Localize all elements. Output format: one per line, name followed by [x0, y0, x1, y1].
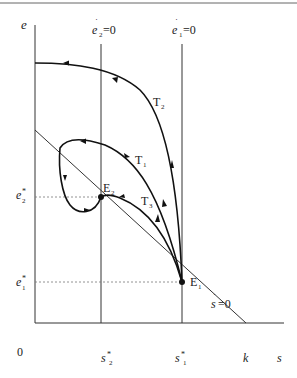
svg-text:2: 2: [109, 359, 113, 367]
y-axis-label: e: [21, 17, 27, 32]
svg-text:=0: =0: [183, 23, 196, 37]
phase-diagram: e s 0 e · 2 =0 e · 1 =0 s · =0 e * 2 e *…: [0, 0, 297, 378]
svg-text:2: 2: [22, 197, 26, 205]
arrow-T2-b: [112, 77, 118, 83]
svg-text:2: 2: [111, 189, 115, 197]
arrow-T1-e: [124, 153, 130, 158]
x-tick-k: k: [243, 351, 249, 365]
isocline-e1dot-label: e · 1 =0: [172, 14, 196, 39]
y-tick-e1star: e * 1: [16, 274, 26, 292]
svg-text:=0: =0: [103, 23, 116, 37]
trajectory-T1: [59, 140, 182, 282]
svg-text:e: e: [172, 23, 178, 37]
arrow-T3-a: [155, 214, 160, 222]
arrow-T1-b: [63, 175, 67, 181]
svg-text:1: 1: [198, 283, 202, 291]
x-tick-s2star: s * 2: [101, 350, 113, 367]
trajectory-T1-label: T 1: [135, 153, 147, 169]
svg-text:=0: =0: [218, 297, 231, 311]
trajectory-T3-label: T 3: [141, 194, 153, 210]
svg-text:e: e: [92, 23, 98, 37]
svg-text:1: 1: [143, 161, 147, 169]
trajectory-T2-label: T 2: [153, 95, 165, 111]
x-axis-label: s: [277, 351, 282, 365]
svg-text:·: ·: [213, 289, 216, 299]
svg-text:*: *: [107, 350, 111, 359]
svg-text:*: *: [22, 187, 26, 196]
svg-text:T: T: [135, 153, 143, 167]
equilibrium-E2-label: E 2: [103, 181, 115, 197]
svg-text:1: 1: [22, 284, 26, 292]
isocline-sdot-label: s · =0: [211, 289, 231, 311]
svg-text:·: ·: [175, 14, 178, 24]
svg-text:·: ·: [95, 14, 98, 24]
svg-text:T: T: [141, 194, 149, 208]
x-tick-s1star: s * 1: [175, 350, 187, 367]
isocline-e2dot-label: e · 2 =0: [92, 14, 116, 39]
origin-label: 0: [17, 345, 23, 359]
svg-text:*: *: [22, 274, 26, 283]
svg-text:E: E: [103, 181, 110, 195]
svg-text:1: 1: [183, 359, 187, 367]
svg-text:E: E: [190, 275, 197, 289]
svg-text:T: T: [153, 95, 161, 109]
svg-text:s: s: [101, 351, 106, 365]
svg-text:s: s: [175, 351, 180, 365]
svg-text:3: 3: [149, 202, 153, 210]
svg-text:s: s: [211, 297, 216, 311]
y-tick-e2star: e * 2: [16, 187, 26, 205]
equilibrium-E1-label: E 1: [190, 275, 202, 291]
svg-text:*: *: [181, 350, 185, 359]
arrow-T1-d: [162, 199, 167, 207]
equilibrium-E1-point: [179, 279, 185, 285]
svg-text:2: 2: [161, 103, 165, 111]
